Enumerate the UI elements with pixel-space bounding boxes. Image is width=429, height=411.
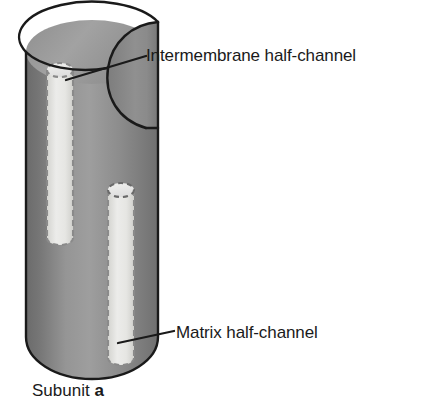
figure-root: Intermembrane half-channel Matrix half-c… [0,0,429,411]
subunit-a-cylinder [26,20,158,379]
matrix-half-channel [108,183,134,365]
matrix-channel-cap [108,183,134,197]
matrix-channel-body [108,190,134,365]
intermembrane-channel-body [47,70,73,245]
cutaway-cut-face [146,22,158,128]
figure-caption: Subunit a [32,381,104,401]
label-matrix-half-channel: Matrix half-channel [176,324,318,343]
caption-text: Subunit [32,381,94,400]
label-intermembrane-half-channel: Intermembrane half-channel [146,47,356,66]
intermembrane-half-channel [47,63,73,245]
caption-subunit-letter: a [94,381,103,400]
